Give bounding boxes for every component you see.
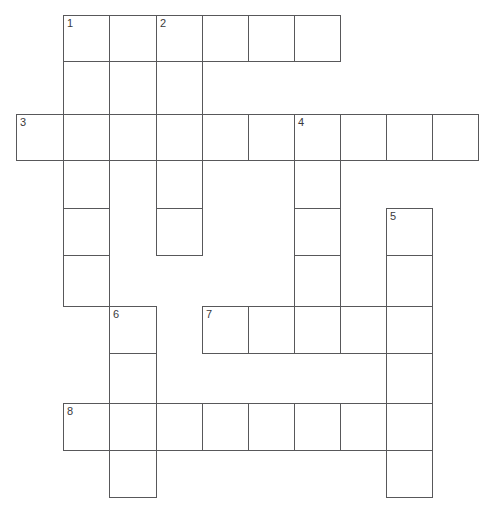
crossword-cell[interactable] (63, 160, 110, 209)
crossword-cell[interactable] (294, 306, 341, 354)
crossword-cell[interactable] (156, 208, 203, 256)
crossword-cell[interactable] (202, 403, 249, 451)
crossword-cell[interactable]: 4 (294, 114, 341, 161)
crossword-grid: 12345678 (0, 0, 492, 522)
crossword-cell[interactable] (432, 114, 479, 161)
crossword-cell[interactable] (109, 114, 157, 161)
crossword-cell[interactable] (156, 160, 203, 209)
crossword-cell[interactable] (109, 353, 157, 404)
cell-number-6: 6 (113, 308, 119, 320)
crossword-cell[interactable] (294, 15, 341, 62)
crossword-cell[interactable] (202, 15, 249, 62)
crossword-cell[interactable] (109, 403, 157, 451)
crossword-cell[interactable] (294, 160, 341, 209)
crossword-cell[interactable] (386, 353, 433, 404)
crossword-cell[interactable] (63, 61, 110, 115)
cell-number-4: 4 (298, 116, 304, 128)
crossword-cell[interactable] (294, 255, 341, 307)
crossword-cell[interactable]: 2 (156, 15, 203, 62)
crossword-cell[interactable] (156, 114, 203, 161)
crossword-cell[interactable]: 8 (63, 403, 110, 451)
crossword-cell[interactable] (294, 208, 341, 256)
crossword-cell[interactable] (109, 61, 157, 115)
crossword-cell[interactable] (340, 306, 387, 354)
cell-number-7: 7 (206, 308, 212, 320)
crossword-cell[interactable] (340, 403, 387, 451)
crossword-cell[interactable] (63, 255, 110, 307)
crossword-cell[interactable] (63, 114, 110, 161)
cell-number-3: 3 (20, 116, 26, 128)
cell-number-8: 8 (67, 405, 73, 417)
crossword-cell[interactable] (248, 306, 295, 354)
crossword-cell[interactable]: 1 (63, 15, 110, 62)
crossword-cell[interactable]: 3 (16, 114, 64, 161)
crossword-cell[interactable]: 7 (202, 306, 249, 354)
crossword-cell[interactable] (156, 403, 203, 451)
cell-number-1: 1 (67, 17, 73, 29)
crossword-cell[interactable] (109, 450, 157, 498)
cell-number-5: 5 (390, 210, 396, 222)
crossword-cell[interactable] (386, 114, 433, 161)
crossword-cell[interactable] (109, 15, 157, 62)
crossword-cell[interactable] (386, 403, 433, 451)
crossword-cell[interactable] (386, 255, 433, 307)
crossword-cell[interactable] (248, 403, 295, 451)
crossword-cell[interactable] (202, 114, 249, 161)
crossword-cell[interactable] (248, 114, 295, 161)
crossword-cell[interactable] (386, 306, 433, 354)
crossword-cell[interactable] (386, 450, 433, 498)
crossword-cell[interactable]: 5 (386, 208, 433, 256)
crossword-cell[interactable] (340, 114, 387, 161)
cell-number-2: 2 (160, 17, 166, 29)
crossword-cell[interactable]: 6 (109, 306, 157, 354)
crossword-cell[interactable] (156, 61, 203, 115)
crossword-cell[interactable] (294, 403, 341, 451)
crossword-cell[interactable] (248, 15, 295, 62)
crossword-cell[interactable] (63, 208, 110, 256)
